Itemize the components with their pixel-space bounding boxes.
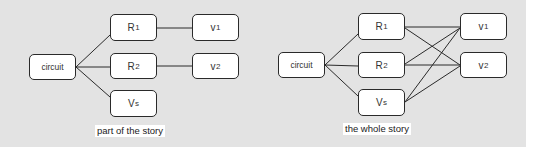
node-v2: v2 xyxy=(460,52,507,78)
node-r1: R1 xyxy=(110,14,157,41)
node-vs: Vs xyxy=(358,89,405,116)
node-label: circuit xyxy=(290,60,312,70)
caption: part of the story xyxy=(95,125,165,137)
node-label: R xyxy=(127,61,134,72)
node-subscript: 2 xyxy=(484,61,488,70)
edge-circuit-vs xyxy=(325,65,358,96)
node-subscript: 1 xyxy=(216,23,220,32)
node-subscript: s xyxy=(135,99,139,108)
edge-circuit-r1 xyxy=(325,34,358,65)
edge-circuit-vs xyxy=(76,67,110,97)
node-label: R xyxy=(127,22,134,33)
node-label: V xyxy=(376,97,383,108)
node-v2: v2 xyxy=(192,53,239,79)
node-v1: v1 xyxy=(460,13,507,40)
node-vs: Vs xyxy=(110,90,157,117)
node-label: V xyxy=(128,98,135,109)
node-label: R xyxy=(375,60,382,71)
node-subscript: 2 xyxy=(383,61,387,70)
caption: the whole story xyxy=(343,123,411,135)
node-label: v xyxy=(211,22,216,33)
node-subscript: 2 xyxy=(135,62,139,71)
edge-circuit-r2 xyxy=(325,65,358,66)
node-subscript: 1 xyxy=(383,22,387,31)
node-label: circuit xyxy=(41,62,63,72)
node-label: v xyxy=(211,61,216,72)
node-label: v xyxy=(479,21,484,32)
node-v1: v1 xyxy=(192,14,239,41)
node-label: R xyxy=(375,21,382,32)
node-subscript: s xyxy=(383,98,387,107)
node-r1: R1 xyxy=(358,13,405,40)
edge-circuit-r1 xyxy=(76,35,110,67)
node-circuit: circuit xyxy=(29,54,76,80)
node-subscript: 1 xyxy=(135,23,139,32)
edges-layer xyxy=(0,0,539,147)
node-r2: R2 xyxy=(110,53,157,79)
node-subscript: 1 xyxy=(484,22,488,31)
node-r2: R2 xyxy=(358,52,405,78)
node-circuit: circuit xyxy=(278,52,325,78)
node-label: v xyxy=(479,60,484,71)
edge-vs-v2 xyxy=(405,66,460,102)
node-subscript: 2 xyxy=(216,62,220,71)
